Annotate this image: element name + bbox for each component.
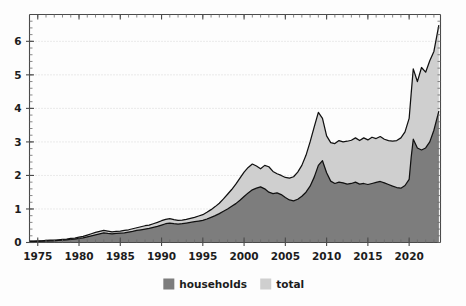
legend-label-households: households [179, 278, 247, 290]
legend-swatch-total [260, 279, 271, 290]
chart-legend: householdstotal [163, 278, 304, 290]
chart-figure: 0123456 19751980198519901995200020052010… [0, 0, 466, 306]
y-tick-label-2: 2 [14, 169, 21, 181]
y-tick-label-6: 6 [14, 35, 21, 47]
legend-label-total: total [276, 278, 304, 290]
y-tick-label-0: 0 [14, 236, 21, 248]
x-tick-label-2000: 2000 [229, 250, 258, 262]
x-tick-label-2010: 2010 [312, 250, 341, 262]
y-tick-label-4: 4 [14, 102, 21, 114]
y-tick-label-1: 1 [14, 203, 21, 215]
x-tick-label-1980: 1980 [64, 250, 93, 262]
x-tick-label-2015: 2015 [353, 250, 382, 262]
x-tick-label-1985: 1985 [106, 250, 135, 262]
area-chart: 0123456 19751980198519901995200020052010… [0, 0, 466, 306]
y-tick-label-3: 3 [14, 136, 21, 148]
legend-swatch-households [163, 279, 174, 290]
y-axis-tick-labels: 0123456 [14, 35, 21, 248]
x-tick-label-2005: 2005 [271, 250, 300, 262]
x-tick-label-1975: 1975 [23, 250, 52, 262]
x-tick-label-2020: 2020 [395, 250, 424, 262]
x-tick-label-1995: 1995 [188, 250, 217, 262]
x-axis-tick-labels: 1975198019851990199520002005201020152020 [23, 250, 424, 262]
chart-areas [30, 25, 439, 242]
x-tick-label-1990: 1990 [147, 250, 176, 262]
y-tick-label-5: 5 [14, 69, 21, 81]
